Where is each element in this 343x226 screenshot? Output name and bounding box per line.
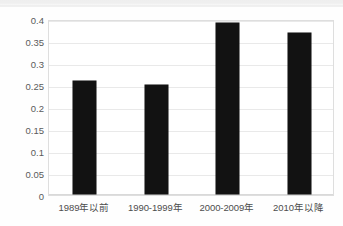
scan-artifact-band-secondary — [0, 5, 343, 7]
y-axis-tick-label: 0.1 — [0, 147, 44, 158]
y-axis-tick-label: 0.4 — [0, 15, 44, 26]
y-axis-tick-label: 0 — [0, 191, 44, 202]
y-axis-tick-label: 0.25 — [0, 81, 44, 92]
bar — [73, 81, 96, 194]
bar-chart-figure: 00.050.10.150.20.250.30.350.4 1989年以前199… — [0, 0, 343, 226]
y-axis-tick-label: 0.05 — [0, 169, 44, 180]
x-axis-category-label: 2010年以降 — [273, 200, 323, 214]
y-axis-tick-label: 0.3 — [0, 59, 44, 70]
x-axis-category-label: 1989年以前 — [59, 200, 109, 214]
bar — [216, 23, 239, 194]
bar — [145, 85, 168, 194]
y-axis-tick-label: 0.35 — [0, 37, 44, 48]
y-axis-tick-label: 0.15 — [0, 125, 44, 136]
bar — [288, 33, 311, 194]
y-axis-tick-label: 0.2 — [0, 103, 44, 114]
x-axis-category-label: 1990-1999年 — [128, 200, 182, 214]
x-axis-category-label: 2000-2009年 — [200, 200, 254, 214]
bars-group — [49, 21, 333, 195]
x-axis-category-labels: 1989年以前1990-1999年2000-2009年2010年以降 — [48, 200, 334, 220]
plot-area — [48, 20, 334, 196]
y-axis-tick-labels: 00.050.10.150.20.250.30.350.4 — [0, 20, 44, 196]
